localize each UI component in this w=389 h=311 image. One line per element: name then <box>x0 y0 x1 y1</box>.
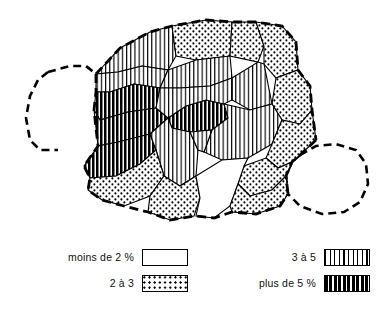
legend-item-3-a-5: 3 à 5 <box>200 244 370 270</box>
paris-map-svg <box>0 0 389 238</box>
legend-column-left: moins de 2 % 2 à 3 <box>18 244 188 296</box>
legend-swatch-2-a-3 <box>142 275 188 292</box>
legend-item-plus-de-5: plus de 5 % <box>200 270 370 296</box>
legend-swatch-plus-de-5 <box>324 275 370 292</box>
region-nord-ouest-1 <box>96 26 176 74</box>
paris-city-body <box>84 20 316 220</box>
legend-item-moins-de-2: moins de 2 % <box>18 244 188 270</box>
legend-swatch-3-a-5 <box>324 249 370 266</box>
legend-label-2-a-3: 2 à 3 <box>110 278 134 289</box>
legend: moins de 2 % 2 à 3 3 à 5 plus de 5 % <box>0 244 389 306</box>
map-area <box>0 0 389 238</box>
legend-item-2-a-3: 2 à 3 <box>18 270 188 296</box>
region-nord-centre-1 <box>172 20 232 60</box>
region-centre-2 <box>232 62 272 110</box>
legend-label-plus-de-5: plus de 5 % <box>259 278 316 289</box>
legend-swatch-moins-de-2 <box>142 249 188 266</box>
choropleth-figure: moins de 2 % 2 à 3 3 à 5 plus de 5 % <box>0 0 389 311</box>
region-bois-de-boulogne <box>26 66 96 150</box>
legend-column-right: 3 à 5 plus de 5 % <box>200 244 370 296</box>
legend-label-moins-de-2: moins de 2 % <box>68 252 134 263</box>
legend-label-3-a-5: 3 à 5 <box>292 252 316 263</box>
